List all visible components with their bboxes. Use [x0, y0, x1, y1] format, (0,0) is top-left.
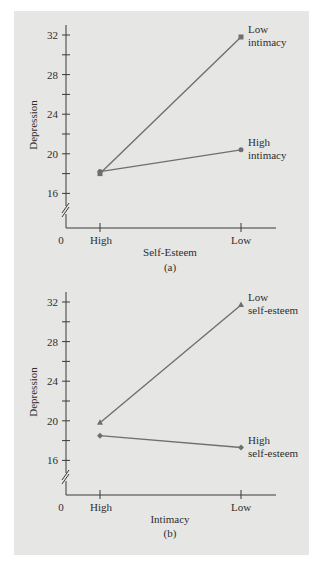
y-tick-label-b: 32 — [47, 296, 58, 308]
x-origin-label-b: 0 — [58, 501, 64, 513]
y-tick-label-a: 16 — [47, 187, 59, 199]
y-axis-label-b: Depression — [27, 367, 39, 417]
y-tick-label-a: 32 — [47, 29, 58, 41]
chart-b: 1620242832 0 High Low Intimacy (b) Depre… — [27, 291, 299, 540]
triangle-marker-icon — [238, 301, 244, 307]
y-tick-label-b: 28 — [47, 336, 59, 348]
y-tick-label-b: 16 — [47, 454, 59, 466]
series-high-intimacy: Highintimacy — [98, 136, 287, 174]
panel-label-b: (b) — [164, 527, 177, 540]
circle-marker-icon — [239, 147, 244, 152]
series-label: High — [248, 434, 271, 446]
y-axis-a: 1620242832 — [47, 25, 70, 228]
series-label: High — [248, 136, 271, 148]
series-label: Low — [248, 291, 268, 303]
x-axis-label-b: Intimacy — [150, 513, 190, 525]
y-axis-b: 1620242832 — [47, 292, 70, 495]
triangle-marker-icon — [97, 419, 103, 425]
series-b: Lowself-esteemHighself-esteem — [97, 291, 299, 459]
x-origin-label-a: 0 — [58, 234, 64, 246]
y-tick-label-b: 24 — [47, 375, 59, 387]
x-tick-high-a: High — [90, 234, 113, 246]
panel-label-a: (a) — [164, 261, 177, 274]
series-label: self-esteem — [248, 304, 299, 316]
x-axis-b: 0 High Low Intimacy (b) — [58, 490, 276, 540]
x-tick-low-b: Low — [231, 501, 251, 513]
series-a: LowintimacyHighintimacy — [98, 23, 287, 176]
series-label: Low — [248, 23, 268, 35]
series-label: self-esteem — [248, 447, 299, 459]
series-label: intimacy — [248, 149, 287, 161]
x-axis-a: 0 High Low Self-Esteem (a) — [58, 223, 276, 274]
y-tick-label-a: 20 — [47, 148, 59, 160]
x-tick-high-b: High — [90, 501, 113, 513]
circle-marker-icon — [98, 169, 103, 174]
series-low-self-esteem: Lowself-esteem — [97, 291, 299, 425]
series-high-self-esteem: Highself-esteem — [97, 433, 299, 459]
figure-svg: 1620242832 0 High Low Self-Esteem (a) De… — [0, 0, 323, 566]
diamond-marker-icon — [97, 433, 103, 439]
x-tick-low-a: Low — [231, 234, 251, 246]
y-tick-label-a: 24 — [47, 108, 59, 120]
series-label: intimacy — [248, 36, 287, 48]
y-axis-label-a: Depression — [27, 100, 39, 150]
x-axis-label-a: Self-Esteem — [143, 246, 197, 258]
diamond-marker-icon — [238, 445, 244, 451]
y-tick-label-b: 20 — [47, 415, 59, 427]
y-tick-label-a: 28 — [47, 69, 59, 81]
chart-a: 1620242832 0 High Low Self-Esteem (a) De… — [27, 23, 287, 274]
square-marker-icon — [239, 34, 244, 39]
